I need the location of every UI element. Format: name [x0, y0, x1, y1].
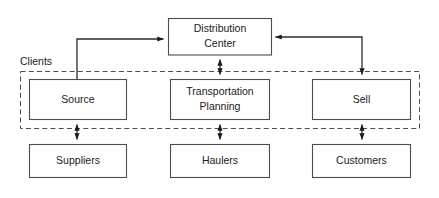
node-transportation-planning[interactable]: Transportation Planning — [171, 80, 270, 120]
node-customers[interactable]: Customers — [313, 145, 411, 178]
node-source[interactable]: Source — [30, 80, 127, 120]
node-haulers-label: Haulers — [202, 154, 238, 166]
node-distribution-center-label-line1: Distribution — [194, 22, 247, 34]
node-suppliers[interactable]: Suppliers — [30, 145, 127, 178]
node-distribution-center-label-line2: Center — [204, 37, 236, 49]
clients-group-label: Clients — [20, 55, 52, 67]
node-transportation-planning-label-line1: Transportation — [186, 85, 253, 97]
node-sell[interactable]: Sell — [313, 80, 411, 120]
edge-distribution-center-to-sell — [276, 37, 363, 75]
node-distribution-center[interactable]: Distribution Center — [169, 19, 272, 56]
edge-source-to-distribution-center — [77, 39, 164, 79]
node-transportation-planning-label-line2: Planning — [200, 100, 241, 112]
supply-chain-diagram: Clients Distribution Center Source — [0, 0, 439, 198]
node-haulers[interactable]: Haulers — [171, 145, 270, 178]
diagram-canvas: Clients Distribution Center Source — [0, 0, 439, 198]
node-source-label: Source — [61, 93, 94, 105]
node-sell-label: Sell — [353, 93, 371, 105]
node-suppliers-label: Suppliers — [56, 154, 100, 166]
node-customers-label: Customers — [336, 154, 387, 166]
